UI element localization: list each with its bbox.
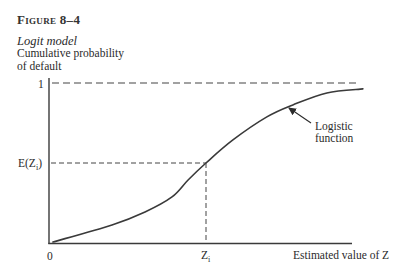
annotation-label-line2: function (315, 132, 354, 144)
origin-label: 0 (47, 250, 53, 262)
x-tick-zi: Zi (201, 249, 211, 264)
figure-page: Figure 8–4 Logit model Cumulative probab… (0, 0, 394, 280)
chart-plot: 1 E(Zi) 0 Zi Estimated value of Z Logist… (0, 0, 394, 280)
x-axis-label: Estimated value of Z (293, 249, 389, 261)
annotation-arrow (289, 108, 311, 123)
y-tick-one: 1 (38, 78, 44, 90)
y-tick-expected-value: E(Zi) (18, 157, 42, 172)
logistic-curve (53, 89, 363, 242)
